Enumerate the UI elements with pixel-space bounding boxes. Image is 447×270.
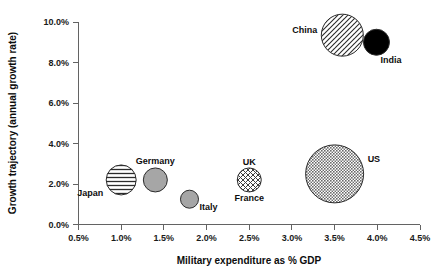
bubble-italy[interactable] bbox=[180, 190, 198, 208]
y-tick-label: 6.0% bbox=[48, 98, 69, 108]
x-tick-label: 4.5% bbox=[410, 233, 431, 243]
x-tick-label: 3.0% bbox=[282, 233, 303, 243]
bubble-label-japan: Japan bbox=[77, 188, 103, 198]
y-tick-label: 0.0% bbox=[48, 220, 69, 230]
x-tick-label: 1.0% bbox=[111, 233, 132, 243]
bubble-label-france: France bbox=[234, 193, 264, 203]
bubble-label-italy: Italy bbox=[199, 202, 217, 212]
y-axis-ticks: 0.0%2.0%4.0%6.0%8.0%10.0% bbox=[43, 17, 78, 230]
bubble-germany[interactable] bbox=[143, 168, 167, 192]
x-tick-label: 2.5% bbox=[239, 233, 260, 243]
bubble-us[interactable] bbox=[306, 145, 364, 203]
bubble-chart-figure: 0.0%2.0%4.0%6.0%8.0%10.0% 0.5%1.0%1.5%2.… bbox=[0, 0, 447, 270]
y-tick-label: 8.0% bbox=[48, 58, 69, 68]
chart-plot-area: 0.0%2.0%4.0%6.0%8.0%10.0% 0.5%1.0%1.5%2.… bbox=[0, 0, 447, 270]
bubble-label-us: US bbox=[368, 154, 381, 164]
x-tick-label: 1.5% bbox=[154, 233, 175, 243]
y-tick-label: 10.0% bbox=[43, 17, 69, 27]
x-tick-label: 2.0% bbox=[196, 233, 217, 243]
y-tick-label: 2.0% bbox=[48, 179, 69, 189]
x-tick-label: 4.0% bbox=[367, 233, 388, 243]
x-tick-label: 0.5% bbox=[68, 233, 89, 243]
bubble-label-germany: Germany bbox=[136, 156, 175, 166]
bubble-japan[interactable] bbox=[106, 165, 136, 195]
bubble-uk[interactable] bbox=[237, 168, 261, 192]
bubble-series bbox=[106, 14, 389, 208]
bubble-china[interactable] bbox=[321, 14, 363, 56]
bubble-label-china: China bbox=[292, 25, 318, 35]
x-axis-title: Military expenditure as % GDP bbox=[177, 255, 322, 266]
y-tick-label: 4.0% bbox=[48, 139, 69, 149]
bubble-india[interactable] bbox=[363, 29, 389, 55]
bubble-label-uk: UK bbox=[243, 157, 256, 167]
x-axis-ticks: 0.5%1.0%1.5%2.0%2.5%3.0%3.5%4.0%4.5% bbox=[68, 225, 430, 244]
y-axis-title: Growth trajectory (annual growth rate) bbox=[7, 32, 18, 214]
x-tick-label: 3.5% bbox=[324, 233, 345, 243]
bubble-label-india: India bbox=[380, 55, 402, 65]
